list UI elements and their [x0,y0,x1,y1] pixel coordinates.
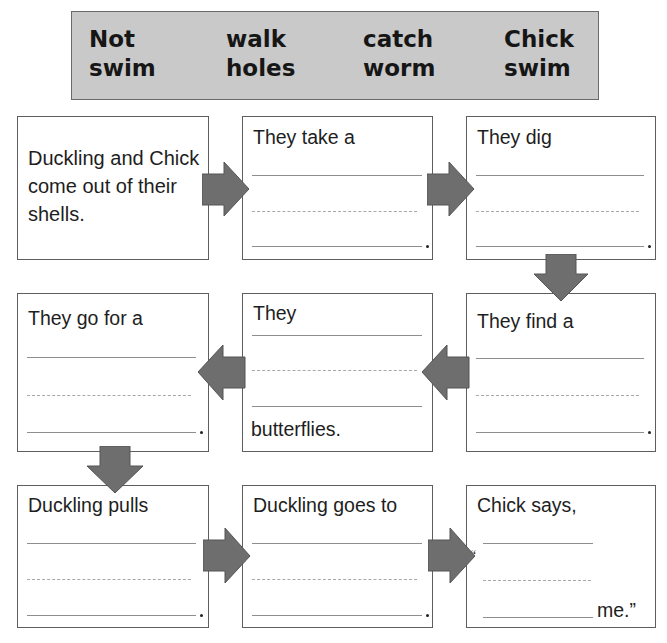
word-bank: Not swim walk holes catch worm Chick swi… [71,11,599,100]
period-mark [426,245,429,248]
box-prompt: Duckling goes to [253,494,397,517]
answer-line-dashed[interactable] [252,211,417,212]
answer-line-solid[interactable] [252,175,422,176]
box-prompt: They dig [477,126,552,149]
sequence-box-7: Duckling pulls [17,485,209,628]
answer-line-dashed[interactable] [476,211,639,212]
period-mark [648,431,651,434]
word-bank-word: swim [504,54,574,83]
sequence-box-4: They find a [466,293,656,452]
answer-line-solid[interactable] [27,357,196,358]
arrow-right-icon [427,162,475,217]
sequence-box-8: Duckling goes to [242,485,433,628]
answer-line-solid[interactable] [252,246,422,247]
arrow-left-icon [422,345,470,401]
word-bank-item: catch worm [363,25,435,83]
answer-line-solid[interactable] [27,432,196,433]
box-prompt: Duckling pulls [28,494,148,517]
word-bank-word: Chick [504,25,574,54]
answer-line-dashed[interactable] [27,395,191,396]
answer-line-solid[interactable] [252,615,422,616]
word-bank-word: worm [363,54,435,83]
answer-line-solid[interactable] [252,335,422,336]
word-bank-word: catch [363,25,435,54]
answer-line-solid[interactable] [27,543,196,544]
sequence-box-6: They go for a [17,293,209,452]
period-mark [200,614,203,617]
answer-line-dashed[interactable] [483,580,591,581]
box-prompt: Chick says, [477,494,577,517]
period-mark [426,614,429,617]
period-mark [648,245,651,248]
answer-line-dashed[interactable] [252,370,417,371]
arrow-left-icon [198,345,246,401]
arrow-down-icon [533,254,589,302]
sequence-box-9: Chick says, “ me.” [466,485,656,628]
answer-line-solid[interactable] [476,175,644,176]
answer-line-solid[interactable] [476,246,644,247]
box-prompt: They go for a [28,307,143,330]
sequence-box-2: They take a [242,116,433,260]
arrow-right-icon [203,528,251,584]
answer-line-dashed[interactable] [252,579,417,580]
sequence-box-3: They dig [466,116,656,260]
sequence-box-5: They butterflies. [242,293,433,452]
arrow-down-icon [86,446,144,494]
word-bank-word: Not [89,25,156,54]
answer-line-solid[interactable] [476,432,644,433]
answer-line-solid[interactable] [252,406,422,407]
box-suffix: me.” [597,599,636,622]
word-bank-word: walk [226,25,295,54]
word-bank-word: swim [89,54,156,83]
arrow-right-icon [202,162,250,217]
word-bank-item: walk holes [226,25,295,83]
answer-line-dashed[interactable] [476,395,639,396]
box-suffix: butterflies. [251,418,341,441]
word-bank-item: Chick swim [504,25,574,83]
answer-line-solid[interactable] [483,617,593,618]
box-prompt: They take a [253,126,355,149]
sequence-box-1: Duckling and Chick come out of their she… [17,116,209,260]
box-prompt: They [253,302,296,325]
box-text: Duckling and Chick come out of their she… [28,144,208,228]
answer-line-dashed[interactable] [27,579,191,580]
answer-line-solid[interactable] [252,543,422,544]
answer-line-solid[interactable] [27,615,196,616]
period-mark [200,431,203,434]
arrow-right-icon [428,528,476,584]
word-bank-item: Not swim [89,25,156,83]
word-bank-word: holes [226,54,295,83]
answer-line-solid[interactable] [476,358,644,359]
answer-line-solid[interactable] [483,543,593,544]
box-prompt: They find a [477,310,573,333]
